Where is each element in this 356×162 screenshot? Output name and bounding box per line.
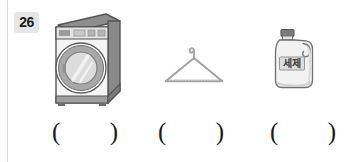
paren-close-2: ) [216,112,224,152]
washing-machine-illustration [46,8,122,113]
detergent-label-text: 세제 [283,57,301,69]
question-number-badge: 26 [14,12,39,33]
paren-open-3: ( [270,112,278,152]
paren-close-1: ) [110,112,118,152]
answer-blanks-row: ( ) ( ) ( ) [0,112,356,154]
detergent-bottle-illustration: 세제 [272,28,318,90]
answer-blank-3[interactable]: ( ) [264,112,342,154]
worksheet-page: 26 [0,0,356,162]
clothes-hanger-illustration [158,40,230,90]
paren-open-1: ( [52,112,60,152]
paren-open-2: ( [158,112,166,152]
answer-blank-1[interactable]: ( ) [46,112,124,154]
paren-close-3: ) [328,112,336,152]
answer-blank-2[interactable]: ( ) [152,112,230,154]
